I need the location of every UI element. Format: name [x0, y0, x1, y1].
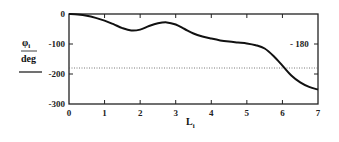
x-tick-label: 6 [280, 108, 285, 118]
x-axis-label: Li [186, 116, 195, 130]
x-tick-label: 4 [209, 108, 214, 118]
y-label-numerator: φi [22, 37, 30, 50]
y-label-denominator: deg [21, 53, 36, 64]
plot-frame [69, 14, 318, 104]
y-tick-label: -200 [49, 69, 66, 79]
y-tick-label: -300 [49, 99, 66, 109]
x-tick-label: 2 [138, 108, 143, 118]
x-tick-label: 7 [316, 108, 321, 118]
right-axis-label-minus-180: - 180 [290, 39, 309, 49]
y-tick-label: 0 [61, 9, 66, 19]
x-tick-label: 1 [102, 108, 107, 118]
y-tick-label: -100 [49, 39, 66, 49]
x-tick-label: 0 [67, 108, 72, 118]
y-axis-label: φi deg [19, 37, 42, 72]
series-line-phi [69, 14, 318, 90]
x-tick-label: 5 [245, 108, 250, 118]
phase-chart: 012345670-100-200-300 φi deg Li - 180 [0, 0, 339, 142]
x-tick-label: 3 [173, 108, 178, 118]
